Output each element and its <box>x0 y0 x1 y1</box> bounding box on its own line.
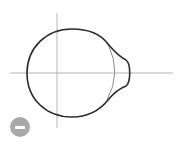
minus-icon <box>15 126 25 129</box>
inner-arc <box>107 44 115 100</box>
zoom-out-button[interactable] <box>10 117 30 137</box>
